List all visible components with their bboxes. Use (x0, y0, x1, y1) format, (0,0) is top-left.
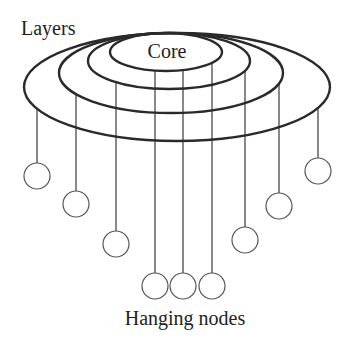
layered-core-diagram: Layers Core Hanging nodes (0, 0, 348, 346)
hanging-node (142, 273, 168, 299)
diagram-svg: Layers Core Hanging nodes (0, 0, 348, 346)
layers-label: Layers (21, 17, 76, 40)
hanging-node (266, 193, 292, 219)
hanging-node (199, 273, 225, 299)
hanging-node (170, 273, 196, 299)
hanging-node (305, 158, 331, 184)
core-label: Core (148, 40, 187, 62)
hanging-nodes-label: Hanging nodes (125, 307, 246, 330)
hanging-node (24, 163, 50, 189)
hanging-node (103, 231, 129, 257)
hanging-node (232, 227, 258, 253)
hanging-node-circles (24, 158, 331, 299)
hanging-lines (37, 63, 318, 273)
hanging-node (63, 191, 89, 217)
